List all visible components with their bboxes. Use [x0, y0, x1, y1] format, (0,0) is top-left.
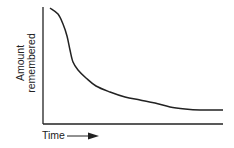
y-axis-label-line-2: remembered	[26, 33, 37, 93]
x-axis-label: Time	[42, 129, 65, 141]
y-axis-label: Amount remembered	[15, 33, 37, 93]
forgetting-curve-line	[50, 8, 223, 110]
time-arrow-icon	[67, 133, 99, 140]
